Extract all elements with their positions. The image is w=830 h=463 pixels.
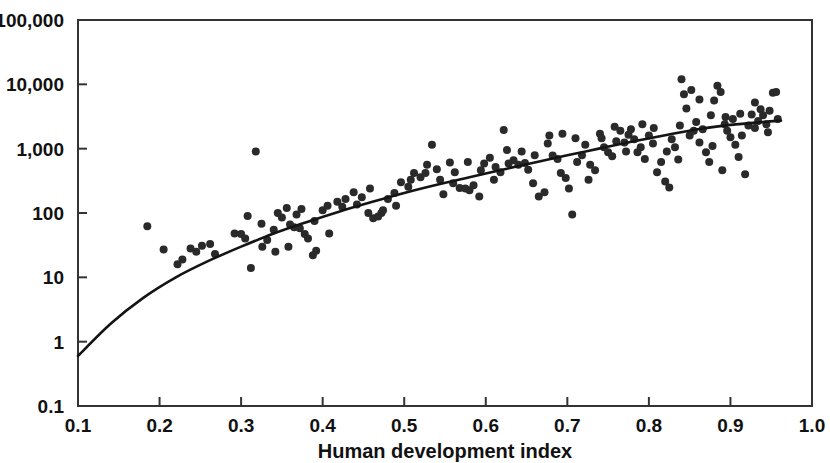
data-point: [283, 204, 291, 212]
data-point: [726, 133, 734, 141]
data-point: [692, 118, 700, 126]
data-point: [421, 169, 429, 177]
data-point: [627, 125, 635, 133]
y-tick-label-6: 100,000: [0, 10, 64, 31]
y-tick-label-2: 10: [43, 267, 64, 288]
data-point: [470, 181, 478, 189]
data-point: [637, 143, 645, 151]
data-point: [252, 148, 260, 156]
data-point: [541, 188, 549, 196]
data-points: [143, 75, 781, 272]
data-point: [668, 135, 676, 143]
x-tick-label-3: 0.4: [309, 415, 336, 436]
data-point: [598, 134, 606, 142]
data-point: [663, 148, 671, 156]
data-point: [178, 255, 186, 263]
data-point: [192, 248, 200, 256]
data-point: [379, 206, 387, 214]
data-point: [486, 154, 494, 162]
data-point: [707, 111, 715, 119]
data-point: [531, 151, 539, 159]
data-point: [571, 134, 579, 142]
data-point: [304, 235, 312, 243]
data-point: [581, 141, 589, 149]
data-point: [674, 155, 682, 163]
data-point: [503, 146, 511, 154]
x-tick-label-1: 0.2: [146, 415, 172, 436]
data-point: [718, 166, 726, 174]
data-point: [573, 158, 581, 166]
data-point: [475, 193, 483, 201]
data-point: [366, 185, 374, 193]
axis-labels: 0.11101001,00010,000100,0000.10.20.30.40…: [0, 10, 825, 462]
data-point: [748, 110, 756, 118]
data-point: [649, 140, 657, 148]
data-point: [392, 202, 400, 210]
data-point: [529, 179, 537, 187]
data-point: [423, 161, 431, 169]
x-tick-label-9: 1.0: [799, 415, 825, 436]
x-axis-title: Human development index: [318, 440, 573, 462]
data-point: [650, 124, 658, 132]
data-point: [241, 235, 249, 243]
data-point: [271, 248, 279, 256]
data-point: [772, 88, 780, 96]
data-point: [705, 158, 713, 166]
data-point: [160, 246, 168, 254]
data-point: [244, 212, 252, 220]
data-point: [585, 176, 593, 184]
y-tick-label-3: 100: [32, 203, 64, 224]
data-point: [591, 166, 599, 174]
data-point: [676, 121, 684, 129]
data-point: [518, 148, 526, 156]
y-tick-label-4: 1,000: [16, 139, 64, 160]
data-point: [397, 178, 405, 186]
data-point: [702, 148, 710, 156]
data-point: [565, 185, 573, 193]
data-point: [611, 123, 619, 131]
data-point: [312, 247, 320, 255]
data-point: [558, 130, 566, 138]
data-point: [695, 138, 703, 146]
data-point: [678, 75, 686, 83]
data-point: [545, 132, 553, 140]
y-tick-label-1: 1: [53, 332, 64, 353]
data-point: [198, 242, 206, 250]
data-point: [657, 158, 665, 166]
data-point: [324, 202, 332, 210]
data-point: [490, 176, 498, 184]
data-point: [653, 168, 661, 176]
data-point: [258, 220, 266, 228]
data-point: [358, 193, 366, 201]
data-point: [717, 88, 725, 96]
x-tick-label-0: 0.1: [65, 415, 92, 436]
data-point: [439, 190, 447, 198]
data-point: [738, 132, 746, 140]
x-tick-label-2: 0.3: [228, 415, 254, 436]
data-point: [608, 152, 616, 160]
data-point: [451, 168, 459, 176]
data-point: [759, 111, 767, 119]
data-point: [350, 188, 358, 196]
data-point: [562, 174, 570, 182]
data-point: [722, 113, 730, 121]
data-point: [247, 264, 255, 272]
data-point: [641, 155, 649, 163]
data-point: [751, 99, 759, 107]
data-point: [682, 105, 690, 113]
data-point: [500, 126, 508, 134]
data-point: [735, 153, 743, 161]
data-point: [480, 159, 488, 167]
data-point: [687, 86, 695, 94]
data-point: [680, 90, 688, 98]
data-point: [278, 214, 286, 222]
fit-curve: [78, 121, 781, 356]
data-point: [342, 195, 350, 203]
data-point: [428, 141, 436, 149]
data-point: [731, 141, 739, 149]
data-point: [407, 176, 415, 184]
data-point: [766, 107, 774, 115]
data-point: [258, 243, 266, 251]
data-point: [709, 142, 717, 150]
trend-line: [78, 121, 781, 356]
